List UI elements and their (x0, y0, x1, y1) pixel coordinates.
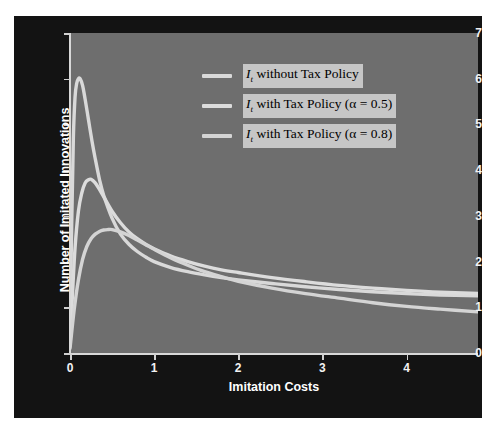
x-tick-mark (154, 354, 156, 360)
x-tick-mark (238, 354, 240, 360)
legend-item[interactable]: It with Tax Policy (α = 0.8) (202, 121, 454, 151)
x-axis-line (69, 353, 478, 355)
legend-label: It with Tax Policy (α = 0.5) (243, 94, 396, 119)
legend-line-swatch (202, 104, 232, 108)
legend-item[interactable]: It with Tax Policy (α = 0.5) (202, 91, 454, 121)
legend-label: It without Tax Policy (243, 64, 363, 89)
chart-legend: It without Tax PolicyIt with Tax Policy … (202, 61, 454, 151)
curve-series-1 (70, 179, 478, 346)
x-tick-mark (322, 354, 324, 360)
legend-line-swatch (202, 134, 232, 138)
faint-header-text (0, 0, 496, 14)
x-axis-title: Imitation Costs (70, 380, 478, 394)
x-tick-mark (70, 354, 72, 360)
legend-label: It with Tax Policy (α = 0.8) (243, 124, 396, 149)
y-tick-mark (64, 33, 70, 35)
y-tick-label: 7 (438, 26, 482, 40)
x-tick-label: 1 (139, 361, 169, 375)
y-tick-label: 1 (438, 300, 482, 314)
y-tick-label: 4 (438, 163, 482, 177)
x-tick-label: 0 (55, 361, 85, 375)
y-axis-title: Number of Imitated Innovations (58, 55, 72, 345)
figure-canvas: 01234567 01234 Number of Imitated Innova… (14, 16, 482, 418)
y-tick-label: 0 (438, 346, 482, 360)
x-tick-label: 4 (392, 361, 422, 375)
x-tick-label: 2 (223, 361, 253, 375)
x-tick-label: 3 (307, 361, 337, 375)
y-tick-label: 2 (438, 255, 482, 269)
chart-figure: 01234567 01234 Number of Imitated Innova… (0, 0, 496, 430)
y-tick-label: 3 (438, 209, 482, 223)
legend-item[interactable]: It without Tax Policy (202, 61, 454, 91)
legend-line-swatch (202, 74, 232, 78)
x-tick-mark (407, 354, 409, 360)
